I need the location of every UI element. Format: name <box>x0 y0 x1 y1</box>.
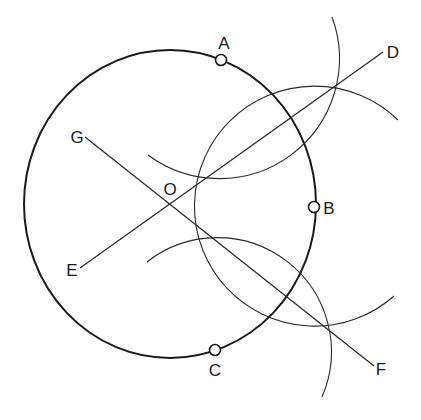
point-c-marker <box>210 345 221 356</box>
label-b: B <box>323 199 334 218</box>
label-g: G <box>70 128 83 147</box>
label-o: O <box>163 180 176 199</box>
label-c: C <box>209 361 221 380</box>
label-e: E <box>66 261 77 280</box>
label-d: D <box>387 43 399 62</box>
point-b-marker <box>309 202 320 213</box>
arc-centered-a <box>148 17 339 179</box>
line-e-d <box>80 52 383 268</box>
geometry-diagram: A B C D E F G O <box>0 0 421 420</box>
point-a-marker <box>216 55 227 66</box>
arc-centered-c <box>147 238 331 397</box>
label-f: F <box>376 360 386 379</box>
label-a: A <box>218 34 230 53</box>
line-g-f <box>85 137 374 366</box>
arc-centered-b <box>194 86 398 326</box>
